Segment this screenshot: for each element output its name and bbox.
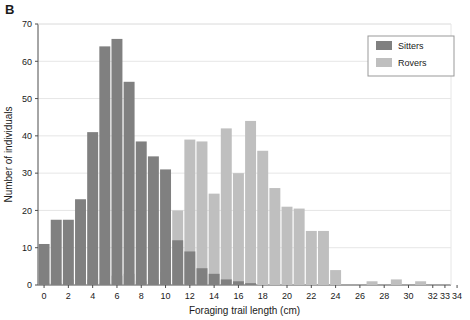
legend-swatch-rovers bbox=[376, 58, 392, 67]
legend-label-sitters: Sitters bbox=[398, 41, 424, 51]
bar-rovers bbox=[245, 121, 256, 285]
x-tick-label: 10 bbox=[161, 291, 171, 301]
x-tick-label: 22 bbox=[306, 291, 316, 301]
y-tick-label: 40 bbox=[22, 131, 32, 141]
bar-rovers bbox=[318, 231, 329, 285]
chart-container: B 01020304050607002468101214161820222426… bbox=[0, 0, 470, 320]
x-tick-label: 2 bbox=[66, 291, 71, 301]
bar-sitters bbox=[148, 156, 159, 285]
bar-sitters bbox=[233, 281, 244, 285]
x-tick-label: 20 bbox=[282, 291, 292, 301]
bar-rovers bbox=[367, 281, 378, 285]
bar-rovers bbox=[209, 194, 220, 285]
x-tick-label: 28 bbox=[379, 291, 389, 301]
x-tick-label: 14 bbox=[209, 291, 219, 301]
x-tick-label: 30 bbox=[403, 291, 413, 301]
bar-sitters bbox=[197, 268, 208, 285]
bar-sitters bbox=[124, 82, 135, 285]
bar-sitters bbox=[75, 199, 86, 285]
bar-sitters bbox=[136, 141, 147, 285]
legend-swatch-sitters bbox=[376, 41, 392, 50]
bar-sitters bbox=[111, 39, 122, 285]
x-tick-label: 26 bbox=[355, 291, 365, 301]
bar-rovers bbox=[415, 281, 426, 285]
bar-sitters bbox=[245, 283, 256, 285]
bar-rovers bbox=[282, 207, 293, 285]
bar-sitters bbox=[160, 169, 171, 285]
x-tick-label: 4 bbox=[90, 291, 95, 301]
x-tick-label: 6 bbox=[114, 291, 119, 301]
y-tick-label: 0 bbox=[27, 280, 32, 290]
y-tick-label: 70 bbox=[22, 19, 32, 29]
bar-sitters bbox=[39, 244, 50, 285]
bar-rovers bbox=[233, 173, 244, 285]
y-tick-label: 60 bbox=[22, 57, 32, 67]
bar-rovers bbox=[221, 128, 232, 285]
bar-rovers bbox=[257, 151, 268, 285]
y-axis-title: Number of individuals bbox=[3, 106, 14, 202]
x-tick-label: 16 bbox=[233, 291, 243, 301]
y-tick-label: 10 bbox=[22, 243, 32, 253]
bar-sitters bbox=[63, 220, 74, 285]
x-tick-label: 24 bbox=[331, 291, 341, 301]
bar-sitters bbox=[99, 46, 110, 285]
bar-rovers bbox=[269, 188, 280, 285]
bar-sitters bbox=[209, 274, 220, 285]
x-tick-label: 8 bbox=[139, 291, 144, 301]
y-tick-label: 30 bbox=[22, 168, 32, 178]
bar-sitters bbox=[51, 220, 62, 285]
bar-sitters bbox=[184, 251, 195, 285]
x-tick-label: 0 bbox=[42, 291, 47, 301]
bar-rovers bbox=[330, 270, 341, 285]
y-tick-label: 50 bbox=[22, 94, 32, 104]
x-tick-label: 34 bbox=[452, 291, 462, 301]
x-tick-label: 18 bbox=[258, 291, 268, 301]
x-tick-label: 12 bbox=[185, 291, 195, 301]
bar-rovers bbox=[294, 209, 305, 285]
bar-chart: 0102030405060700246810121416182022242628… bbox=[0, 0, 470, 320]
bar-sitters bbox=[172, 240, 183, 285]
bar-rovers bbox=[391, 279, 402, 285]
x-tick-label: 32 bbox=[428, 291, 438, 301]
bar-sitters bbox=[87, 132, 98, 285]
y-tick-label: 20 bbox=[22, 206, 32, 216]
legend-label-rovers: Rovers bbox=[398, 58, 427, 68]
x-tick-label: 33 bbox=[440, 291, 450, 301]
bar-rovers bbox=[306, 231, 317, 285]
x-axis-title: Foraging trail length (cm) bbox=[189, 305, 300, 316]
bar-sitters bbox=[221, 279, 232, 285]
bar-rovers bbox=[197, 141, 208, 285]
